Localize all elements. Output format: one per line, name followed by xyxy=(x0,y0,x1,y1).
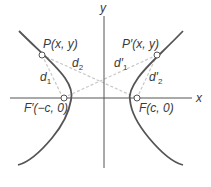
label-d1-prime: d′1 xyxy=(114,56,128,72)
y-axis-label: y xyxy=(99,1,107,15)
label-d1: d1 xyxy=(40,70,52,86)
label-P-prime: P′(x, y) xyxy=(122,37,159,51)
label-P: P(x, y) xyxy=(43,37,78,51)
label-d2: d2 xyxy=(72,56,84,72)
point-P xyxy=(39,52,45,58)
label-F-prime: F′(−c, 0) xyxy=(24,101,68,115)
label-d2-prime: d′2 xyxy=(149,70,163,86)
hyperbola-diagram: y x P(x, y) P′(x, y) F′(−c, 0) F(c, 0) d… xyxy=(0,0,211,187)
point-P-prime xyxy=(154,52,160,58)
x-axis-label: x xyxy=(195,91,203,105)
label-F: F(c, 0) xyxy=(139,101,174,115)
